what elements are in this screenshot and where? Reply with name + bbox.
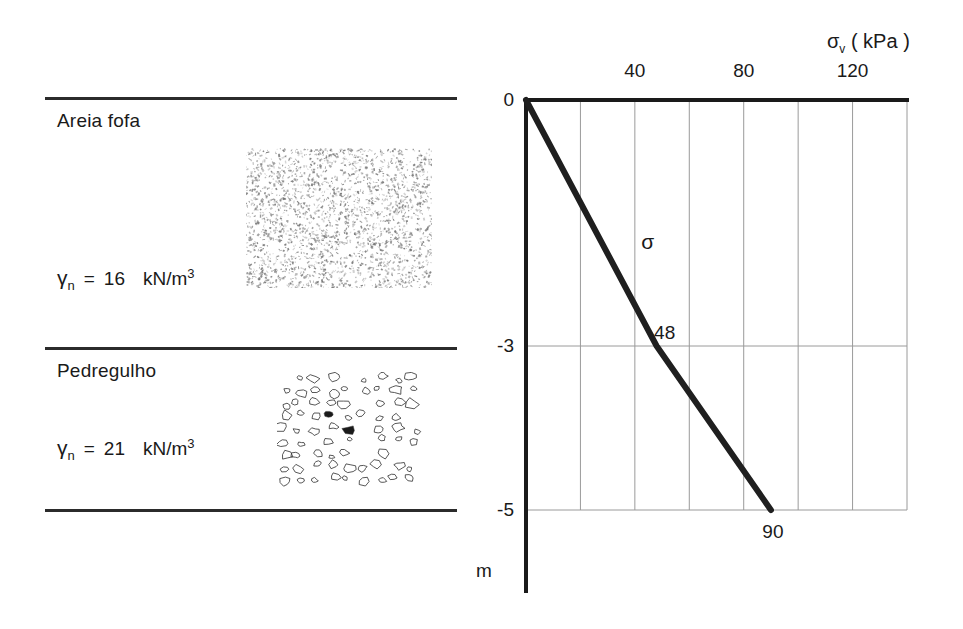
soil-layer-2-name: Pedregulho bbox=[57, 360, 156, 382]
equals-sign-1: = bbox=[84, 268, 95, 289]
grid-lines bbox=[526, 100, 907, 510]
soil-layer-1-unit-weight: γn=16kN/m3 bbox=[57, 266, 195, 293]
gravel-pebbles-icon bbox=[277, 372, 429, 492]
y-tick--3: -3 bbox=[480, 335, 514, 357]
stress-series-label: σ bbox=[641, 230, 654, 254]
stress-plot bbox=[470, 0, 963, 629]
gamma-symbol-2: γ bbox=[57, 436, 68, 459]
profile-base-line bbox=[45, 509, 457, 512]
ground-surface-line bbox=[45, 97, 457, 100]
gravel-texture-swatch bbox=[277, 372, 429, 492]
unit-weight-unit-1: kN/m bbox=[143, 268, 187, 289]
equals-sign-2: = bbox=[84, 438, 95, 459]
stress-value-at-3m: 48 bbox=[654, 322, 675, 344]
sand-texture-swatch bbox=[246, 148, 432, 288]
stress-curve bbox=[526, 100, 771, 510]
x-axis-unit: ( kPa ) bbox=[851, 30, 910, 52]
sigma-symbol: σ bbox=[827, 30, 839, 52]
unit-weight-exponent-2: 3 bbox=[187, 436, 194, 451]
figure-canvas: Areia fofa γn=16kN/m3 Pedregulho γn=21kN… bbox=[0, 0, 963, 629]
stress-chart-panel: σv ( kPa ) 4080120 0-3-5 m σ 48 90 bbox=[470, 0, 963, 629]
gamma-subscript-2: n bbox=[68, 448, 75, 463]
unit-weight-exponent-1: 3 bbox=[187, 266, 194, 281]
sigma-subscript: v bbox=[839, 42, 845, 56]
unit-weight-unit-2: kN/m bbox=[143, 438, 187, 459]
unit-weight-value-2: 21 bbox=[104, 438, 125, 459]
x-tick-80: 80 bbox=[733, 60, 754, 82]
layer-interface-line bbox=[45, 347, 457, 350]
x-axis-title: σv ( kPa ) bbox=[827, 30, 910, 56]
soil-layer-1-name: Areia fofa bbox=[57, 110, 140, 132]
y-tick--5: -5 bbox=[480, 499, 514, 521]
gamma-symbol-1: γ bbox=[57, 266, 68, 289]
soil-profile-panel: Areia fofa γn=16kN/m3 Pedregulho γn=21kN… bbox=[0, 0, 480, 629]
x-tick-40: 40 bbox=[624, 60, 645, 82]
sand-stipple-icon bbox=[246, 148, 432, 288]
y-axis-unit-label: m bbox=[476, 560, 492, 582]
y-tick-0: 0 bbox=[480, 89, 514, 111]
x-tick-120: 120 bbox=[837, 60, 869, 82]
stress-value-at-5m: 90 bbox=[762, 521, 783, 543]
soil-layer-2-unit-weight: γn=21kN/m3 bbox=[57, 436, 195, 463]
gamma-subscript-1: n bbox=[68, 278, 75, 293]
unit-weight-value-1: 16 bbox=[104, 268, 125, 289]
